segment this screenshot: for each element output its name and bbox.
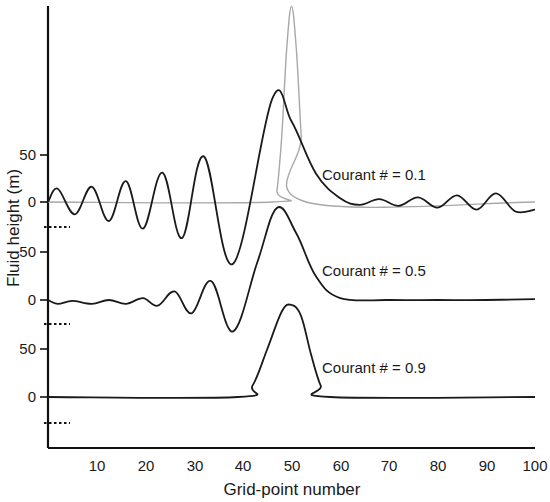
- series-layer: [48, 6, 535, 398]
- svg-text:70: 70: [381, 457, 398, 474]
- svg-text:10: 10: [89, 457, 106, 474]
- y-tick-label-top-50: 50: [19, 146, 36, 163]
- svg-text:90: 90: [479, 457, 496, 474]
- y-tick-label-bot-0: 0: [28, 388, 36, 405]
- svg-text:60: 60: [333, 457, 350, 474]
- series-middle-0: [48, 207, 535, 332]
- svg-text:30: 30: [187, 457, 204, 474]
- x-axis-title: Grid-point number: [223, 480, 360, 499]
- annotation-courant-0-5: Courant # = 0.5: [322, 262, 426, 279]
- svg-text:80: 80: [430, 457, 447, 474]
- series-bottom-0: [48, 304, 535, 398]
- svg-text:40: 40: [235, 457, 252, 474]
- annotation-courant-0-1: Courant # = 0.1: [322, 166, 426, 183]
- y-axis-title: Fluid height (m): [4, 169, 23, 287]
- svg-text:20: 20: [138, 457, 155, 474]
- annotation-courant-0-9: Courant # = 0.9: [322, 359, 426, 376]
- y-ticks: [40, 155, 48, 397]
- y-tick-label-mid-0: 0: [28, 291, 36, 308]
- svg-text:50: 50: [284, 457, 301, 474]
- series-top-0: [48, 6, 535, 207]
- y-tick-label-bot-50: 50: [19, 340, 36, 357]
- svg-text:100: 100: [522, 457, 547, 474]
- x-tick-labels: 10 20 30 40 50 60 70 80 90 100: [89, 457, 548, 474]
- y-tick-label-top-0: 0: [28, 193, 36, 210]
- series-top-1: [48, 90, 535, 264]
- chart: 50 0 50 0 50 0 10 20 30 40 50 60 70 80 9…: [0, 0, 550, 502]
